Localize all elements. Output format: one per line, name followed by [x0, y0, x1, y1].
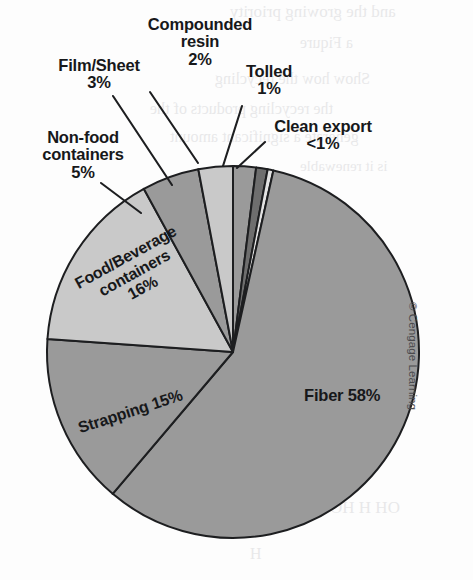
- callout-value: <1%: [259, 135, 387, 152]
- callout-value: 3%: [44, 74, 154, 91]
- callout-line: Compounded: [139, 16, 261, 33]
- callout-line: Clean export: [259, 118, 387, 135]
- callout-value: 5%: [22, 164, 144, 181]
- callout-film-sheet: Film/Sheet 3%: [44, 57, 154, 92]
- callout-tolled: Tolled 1%: [230, 63, 308, 98]
- callout-compounded-resin: Compounded resin 2%: [139, 16, 261, 68]
- callout-line: Non-food: [22, 129, 144, 146]
- callout-line: resin: [139, 33, 261, 50]
- callout-clean-export: Clean export <1%: [259, 118, 387, 153]
- leader-line-compounded-resin: [150, 92, 198, 163]
- figure-page: and the growing priority a Fiqure Show h…: [0, 0, 473, 580]
- slice-label-fiber: Fiber 58%: [304, 386, 380, 404]
- callout-line: Film/Sheet: [44, 57, 154, 74]
- pie-slice-group: [47, 166, 419, 538]
- callout-line: Tolled: [230, 63, 308, 80]
- callout-line: containers: [22, 146, 144, 163]
- copyright-notice: © Cengage Learning: [407, 302, 419, 410]
- leader-line-tolled: [223, 106, 242, 166]
- callout-value: 1%: [230, 80, 308, 97]
- callout-non-food: Non-food containers 5%: [22, 129, 144, 181]
